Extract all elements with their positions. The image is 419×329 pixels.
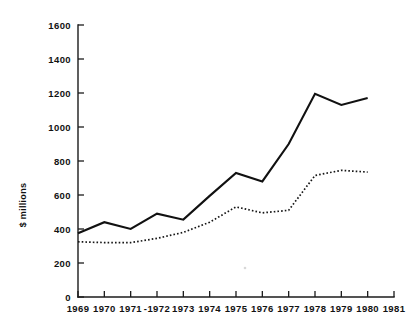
y-tick-label: 0 — [65, 292, 71, 303]
x-tick-label: 1973 — [172, 303, 195, 314]
x-tick-label: 1976 — [251, 303, 274, 314]
x-tick-label: 1980 — [356, 303, 379, 314]
y-tick-label: 1600 — [48, 20, 71, 31]
y-tick-label: 1200 — [48, 88, 71, 99]
x-tick-label: 1975 — [225, 303, 248, 314]
y-tick-label: 200 — [54, 258, 71, 269]
y-tick-label: 400 — [54, 224, 71, 235]
x-tick-label: 1979 — [330, 303, 353, 314]
x-tick-label: 1978 — [304, 303, 327, 314]
y-tick-label: 800 — [54, 156, 71, 167]
y-axis-title: $ millions — [18, 183, 28, 228]
line-chart: 02004006008001000120014001600 $ millions… — [0, 0, 419, 329]
y-tick-label: 1000 — [48, 122, 71, 133]
y-tick-label: 1400 — [48, 54, 71, 65]
x-tick-label: 1981 — [383, 303, 406, 314]
y-tick-label: 600 — [54, 190, 71, 201]
x-tick-label: 1971 — [119, 303, 142, 314]
x-tick-label: 1977 — [277, 303, 300, 314]
x-tick-label: -1972 — [144, 303, 170, 314]
scan-artifact-speck — [244, 267, 247, 270]
chart-canvas: 02004006008001000120014001600 $ millions… — [0, 0, 419, 329]
x-tick-label: 1970 — [93, 303, 116, 314]
x-tick-label: 1974 — [198, 303, 221, 314]
x-tick-label: 1969 — [67, 303, 90, 314]
